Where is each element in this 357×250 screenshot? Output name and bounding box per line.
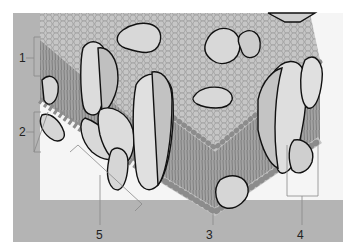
- membrane-illustration: [0, 0, 357, 250]
- label-5-protein-cluster: 5: [96, 229, 103, 241]
- label-3-phospholipid-head: 3: [206, 229, 213, 241]
- label-4-integral-protein: 4: [297, 229, 304, 241]
- label-1-phospholipid-bilayer: 1: [19, 52, 26, 64]
- membrane-diagram: 1 2 3 4 5: [0, 0, 357, 250]
- label-2-membrane-side: 2: [19, 126, 26, 138]
